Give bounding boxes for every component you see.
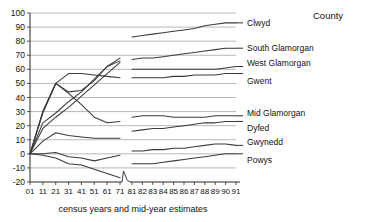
x-axis-tick-label: 41 bbox=[77, 187, 86, 196]
series-line-west-glamorgan bbox=[132, 67, 236, 70]
x-axis-tick-label: 01 bbox=[26, 187, 35, 196]
series-label-dyfed: Dyfed bbox=[247, 123, 269, 133]
y-axis-tick-label: 100 bbox=[11, 8, 25, 18]
y-axis-tick-label: 20 bbox=[16, 121, 26, 131]
chart-canvas: -20-100102030405060708090100011121314151… bbox=[0, 0, 381, 222]
x-axis-tick-label: 90 bbox=[221, 187, 230, 196]
y-axis-tick-label: 90 bbox=[16, 22, 26, 32]
x-axis-tick-label: 82 bbox=[138, 187, 147, 196]
x-axis-caption: census years and mid-year estimates bbox=[58, 204, 208, 214]
x-axis-tick-label: 83 bbox=[148, 187, 157, 196]
x-axis-tick-label: 85 bbox=[169, 187, 178, 196]
series-label-west-glamorgan: West Glamorgan bbox=[247, 58, 311, 68]
series-line-powys bbox=[132, 154, 236, 164]
series-label-gwynedd: Gwynedd bbox=[247, 137, 283, 147]
x-axis-tick-label: 71 bbox=[116, 187, 125, 196]
x-axis-tick-label: 21 bbox=[51, 187, 60, 196]
y-axis-tick-label: 40 bbox=[16, 93, 26, 103]
y-axis-tick-label: 10 bbox=[16, 135, 26, 145]
x-axis-tick-label: 91 bbox=[232, 187, 241, 196]
x-axis-tick-label: 88 bbox=[200, 187, 209, 196]
y-axis-tick-label: -20 bbox=[13, 177, 26, 187]
series-line-mid-glamorgan bbox=[132, 116, 236, 117]
x-axis-tick-label: 89 bbox=[211, 187, 220, 196]
y-axis-tick-label: -10 bbox=[13, 163, 26, 173]
series-label-gwent: Gwent bbox=[247, 76, 272, 86]
y-axis-tick-label: 60 bbox=[16, 64, 26, 74]
series-label-south-glamorgan: South Glamorgan bbox=[247, 43, 314, 53]
series-label-powys: Powys bbox=[247, 155, 272, 165]
series-line-south-glamorgan bbox=[132, 48, 236, 59]
x-axis-tick-label: 84 bbox=[159, 187, 168, 196]
y-axis-tick-label: 30 bbox=[16, 107, 26, 117]
legend-title: County bbox=[313, 10, 343, 21]
y-axis-tick-label: 80 bbox=[16, 36, 26, 46]
y-axis-tick-label: 0 bbox=[20, 149, 25, 159]
x-axis-tick-label: 87 bbox=[190, 187, 199, 196]
x-axis-tick-label: 86 bbox=[180, 187, 189, 196]
x-axis-tick-label: 61 bbox=[103, 187, 112, 196]
line-chart: -20-100102030405060708090100011121314151… bbox=[0, 0, 381, 222]
series-line-mid-glamorgan bbox=[30, 83, 120, 153]
series-line-gwynedd bbox=[132, 144, 236, 151]
x-axis-tick-label: 11 bbox=[39, 187, 48, 196]
y-axis-tick-label: 50 bbox=[16, 78, 26, 88]
series-line-dyfed bbox=[132, 121, 236, 131]
x-axis-tick-label: 81 bbox=[128, 187, 137, 196]
y-axis-tick-label: 70 bbox=[16, 50, 26, 60]
series-line-gwent bbox=[30, 74, 120, 154]
series-line-gwent bbox=[132, 74, 236, 78]
series-label-clwyd: Clwyd bbox=[247, 18, 270, 28]
series-line-clwyd bbox=[132, 23, 236, 37]
x-axis-tick-label: 51 bbox=[90, 187, 99, 196]
x-axis-tick-label: 31 bbox=[64, 187, 73, 196]
axis-break-marker bbox=[122, 171, 130, 182]
series-label-mid-glamorgan: Mid Glamorgan bbox=[247, 108, 305, 118]
series-line-dyfed bbox=[30, 133, 120, 154]
